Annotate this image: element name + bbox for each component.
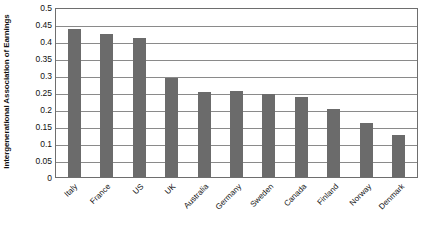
bar[interactable] bbox=[392, 135, 405, 178]
x-tick-label: Finland bbox=[316, 182, 341, 207]
x-tick-label: Canada bbox=[282, 182, 308, 208]
x-label-slot: US bbox=[122, 179, 155, 237]
y-tick-label: 0.2 bbox=[18, 106, 52, 115]
bar[interactable] bbox=[133, 38, 146, 177]
bar-slot bbox=[188, 9, 220, 177]
x-label-slot: Canada bbox=[285, 179, 318, 237]
x-label-slot: Denmark bbox=[383, 179, 416, 237]
bar-slot bbox=[253, 9, 285, 177]
x-label-slot: UK bbox=[155, 179, 188, 237]
y-tick-label: 0.15 bbox=[18, 123, 52, 132]
bar-slot bbox=[285, 9, 317, 177]
y-tick-label: 0.05 bbox=[18, 157, 52, 166]
x-label-slot: Finland bbox=[318, 179, 351, 237]
bar[interactable] bbox=[295, 97, 308, 177]
bar[interactable] bbox=[165, 78, 178, 177]
bar[interactable] bbox=[100, 34, 113, 177]
bar[interactable] bbox=[68, 29, 81, 177]
bar[interactable] bbox=[262, 94, 275, 177]
bar-slot bbox=[220, 9, 252, 177]
y-tick-label: 0.3 bbox=[18, 72, 52, 81]
y-axis-title: Intergenerational Association of Earning… bbox=[0, 0, 16, 185]
x-label-slot: Sweden bbox=[253, 179, 286, 237]
y-axis-tick-labels: 0.5 0.45 0.4 0.35 0.3 0.25 0.2 0.15 0.1 … bbox=[16, 0, 52, 185]
bar-slot bbox=[123, 9, 155, 177]
bar-series bbox=[56, 9, 417, 177]
x-label-slot: Germany bbox=[220, 179, 253, 237]
y-tick-label: 0.25 bbox=[18, 89, 52, 98]
x-axis-tick-labels: ItalyFranceUSUKAustraliaGermanySwedenCan… bbox=[55, 179, 418, 237]
x-label-slot: Australia bbox=[188, 179, 221, 237]
bar-chart: Intergenerational Association of Earning… bbox=[0, 0, 430, 237]
bar-slot bbox=[155, 9, 187, 177]
x-tick-label: Italy bbox=[63, 182, 80, 199]
bar[interactable] bbox=[327, 109, 340, 177]
x-tick-label: Norway bbox=[348, 182, 374, 208]
x-label-slot: Norway bbox=[351, 179, 384, 237]
bar-slot bbox=[90, 9, 122, 177]
x-label-slot: Italy bbox=[57, 179, 90, 237]
x-tick-label: US bbox=[131, 182, 145, 196]
x-tick-label: Sweden bbox=[249, 182, 276, 209]
bar-slot bbox=[318, 9, 350, 177]
y-tick-label: 0.45 bbox=[18, 21, 52, 30]
y-tick-label: 0.4 bbox=[18, 38, 52, 47]
y-tick-label: 0 bbox=[18, 174, 52, 183]
y-tick-label: 0.1 bbox=[18, 140, 52, 149]
x-tick-label: UK bbox=[163, 182, 177, 196]
bar-slot bbox=[383, 9, 415, 177]
bar[interactable] bbox=[360, 123, 373, 177]
x-label-slot: France bbox=[90, 179, 123, 237]
y-tick-label: 0.5 bbox=[18, 4, 52, 13]
bar-slot bbox=[350, 9, 382, 177]
plot-area bbox=[55, 8, 418, 178]
bar[interactable] bbox=[198, 92, 211, 177]
bar[interactable] bbox=[230, 91, 243, 177]
y-axis-title-text: Intergenerational Association of Earning… bbox=[2, 0, 11, 183]
y-tick-label: 0.35 bbox=[18, 55, 52, 64]
x-tick-label: France bbox=[88, 182, 112, 206]
bar-slot bbox=[58, 9, 90, 177]
